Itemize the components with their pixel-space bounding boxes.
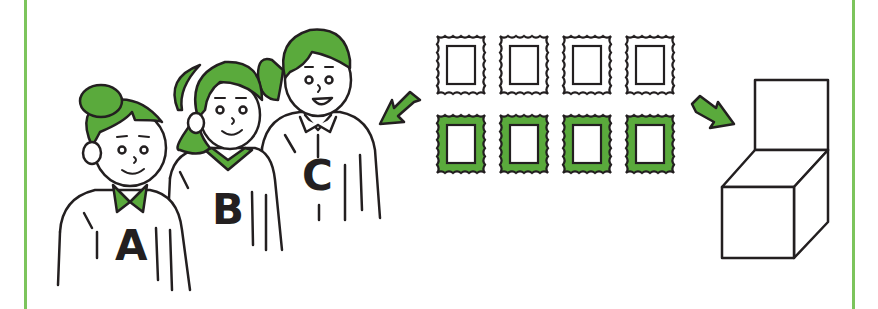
stamp-white — [563, 36, 611, 94]
label-a: A — [115, 221, 148, 270]
stamp-white — [437, 36, 485, 94]
stamp-green — [563, 115, 611, 173]
stamp-white — [500, 36, 548, 94]
label-b: B — [212, 185, 244, 234]
box — [722, 80, 828, 258]
stamp-white — [626, 36, 674, 94]
illustration: A B C — [0, 0, 878, 309]
label-c: C — [302, 151, 333, 200]
stamp-green — [437, 115, 485, 173]
stamp-grid — [437, 36, 674, 173]
stamp-green — [500, 115, 548, 173]
arrow-right-icon — [692, 96, 734, 128]
stamp-green — [626, 115, 674, 173]
arrow-left-icon — [380, 92, 420, 124]
